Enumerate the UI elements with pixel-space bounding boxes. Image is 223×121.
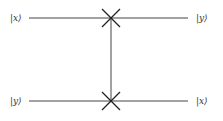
wire-2-input-label: |y⟩ (10, 96, 22, 107)
wire-1-output-label: |y⟩ (196, 13, 208, 24)
wire-2-output-label: |x⟩ (196, 96, 208, 107)
swap-circuit-diagram: |x⟩ |y⟩ |y⟩ |x⟩ (0, 0, 223, 121)
wire-1-input-label: |x⟩ (10, 13, 22, 24)
